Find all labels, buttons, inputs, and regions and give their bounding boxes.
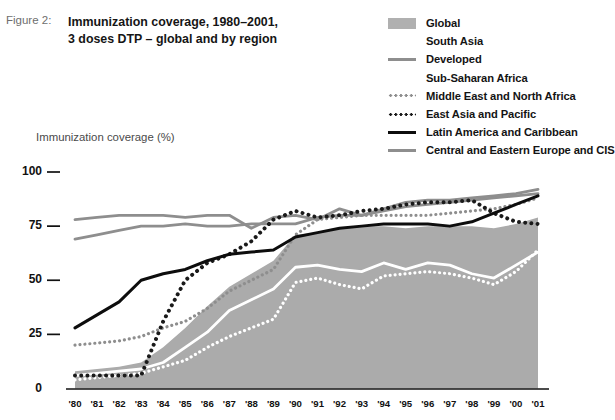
y-axis-tick-label: 0	[8, 381, 42, 395]
x-axis-tick-label: '86	[195, 398, 219, 409]
x-axis-tick-label: '87	[217, 398, 241, 409]
x-axis-tick-label: '91	[306, 398, 330, 409]
x-axis-tick-label: '96	[416, 398, 440, 409]
x-axis-tick-label: '82	[107, 398, 131, 409]
x-axis-tick-label: '00	[504, 398, 528, 409]
series-area-global	[75, 217, 538, 388]
x-axis-tick-label: '99	[482, 398, 506, 409]
x-axis-tick-label: '83	[129, 398, 153, 409]
x-axis-tick-label: '89	[261, 398, 285, 409]
y-axis-tick-label: 50	[8, 272, 42, 286]
x-axis-tick-label: '98	[460, 398, 484, 409]
x-axis-tick-label: '93	[350, 398, 374, 409]
x-axis-tick-label: '95	[394, 398, 418, 409]
x-axis-tick-label: '97	[438, 398, 462, 409]
x-axis-tick-label: '94	[372, 398, 396, 409]
x-axis-tick-label: '85	[173, 398, 197, 409]
x-axis-tick-label: '88	[239, 398, 263, 409]
x-axis-tick-label: '92	[328, 398, 352, 409]
x-axis-tick-label: '80	[63, 398, 87, 409]
x-axis-tick-label: '84	[151, 398, 175, 409]
y-axis-tick-label: 75	[8, 218, 42, 232]
x-axis-tick-label: '81	[85, 398, 109, 409]
y-axis-tick-label: 100	[8, 164, 42, 178]
x-axis-tick-label: '01	[526, 398, 550, 409]
y-axis-tick-label: 25	[8, 326, 42, 340]
x-axis-tick-label: '90	[283, 398, 307, 409]
